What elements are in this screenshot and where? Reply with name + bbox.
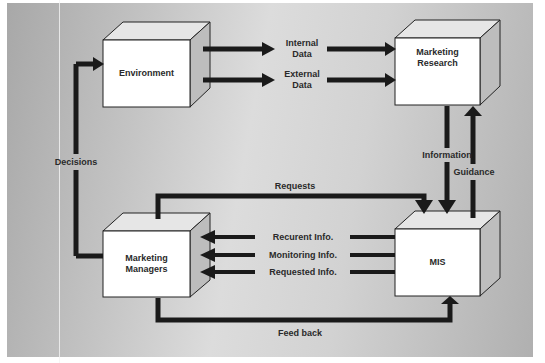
marketing-managers-line1: Marketing <box>125 253 168 264</box>
internal-data-label: Internal Data <box>280 38 324 60</box>
decisions-label: Decisions <box>52 157 100 168</box>
marketing-research-label: Marketing Research <box>395 38 480 78</box>
information-label: Information <box>418 150 476 161</box>
marketing-managers-line2: Managers <box>125 264 167 275</box>
environment-text: Environment <box>119 68 174 79</box>
environment-label: Environment <box>103 40 190 107</box>
external-data-line1: External <box>280 69 324 80</box>
requests-label: Requests <box>265 181 325 192</box>
guidance-arrowhead <box>464 106 482 116</box>
marketing-research-line2: Research <box>417 58 458 69</box>
mis-label: MIS <box>395 229 480 296</box>
guidance-label: Guidance <box>452 167 496 178</box>
requested-info-label: Requested Info. <box>258 267 348 278</box>
internal-data-line1: Internal <box>280 38 324 49</box>
feed-back-label: Feed back <box>275 328 325 339</box>
external-data-line2: Data <box>280 80 324 91</box>
internal-data-arrowhead-1 <box>262 42 275 56</box>
internal-data-line2: Data <box>280 49 324 60</box>
feed-back-arrowhead <box>441 296 459 304</box>
monitoring-info-label: Monitoring Info. <box>258 250 348 261</box>
marketing-managers-label: Marketing Managers <box>103 231 190 297</box>
marketing-research-line1: Marketing <box>416 47 459 58</box>
feed-back-arrow <box>158 298 450 320</box>
external-data-label: External Data <box>280 69 324 91</box>
external-data-arrowhead-1 <box>262 73 275 87</box>
recurent-info-label: Recurent Info. <box>258 232 348 243</box>
mis-text: MIS <box>429 257 445 268</box>
